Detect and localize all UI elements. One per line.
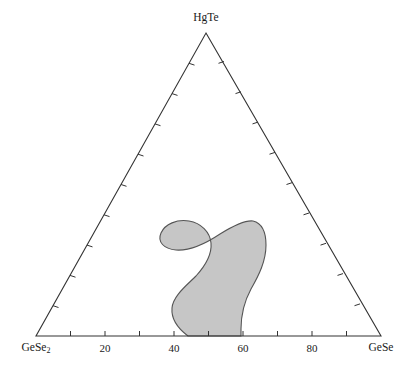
bottom-right-vertex-label: GeSe xyxy=(369,342,394,354)
tick-label-20: 20 xyxy=(100,343,111,354)
tick-right-30 xyxy=(321,243,327,245)
tick-left-60 xyxy=(138,154,144,156)
tick-left-80 xyxy=(172,94,178,96)
tick-right-10 xyxy=(355,304,361,306)
tick-label-40: 40 xyxy=(169,343,180,354)
tick-label-60: 60 xyxy=(238,343,249,354)
tick-left-10 xyxy=(53,306,59,308)
tick-left-30 xyxy=(87,245,93,247)
tick-left-90 xyxy=(189,63,195,65)
bottom-axis-ticks xyxy=(71,331,347,336)
bottom-left-vertex-label-text: GeSe xyxy=(22,341,47,353)
tick-left-20 xyxy=(70,275,76,277)
bottom-left-vertex-label: GeSe2 xyxy=(22,342,51,355)
tick-label-80: 80 xyxy=(307,343,318,354)
ternary-diagram-figure: HgTe GeSe2 GeSe 20 40 60 80 xyxy=(0,0,412,368)
tick-right-40 xyxy=(304,213,310,215)
tick-right-50 xyxy=(287,183,293,185)
bottom-left-vertex-label-subscript: 2 xyxy=(46,346,50,355)
glass-forming-region-shape xyxy=(160,221,266,336)
tick-left-70 xyxy=(155,124,161,126)
tick-left-50 xyxy=(121,185,127,187)
tick-left-40 xyxy=(104,215,110,217)
tick-right-60 xyxy=(270,152,276,154)
ternary-plot-canvas xyxy=(0,0,412,368)
tick-right-20 xyxy=(338,274,344,276)
left-axis-ticks xyxy=(53,63,195,307)
apex-vertex-label: HgTe xyxy=(193,12,218,24)
tick-right-70 xyxy=(253,122,259,124)
